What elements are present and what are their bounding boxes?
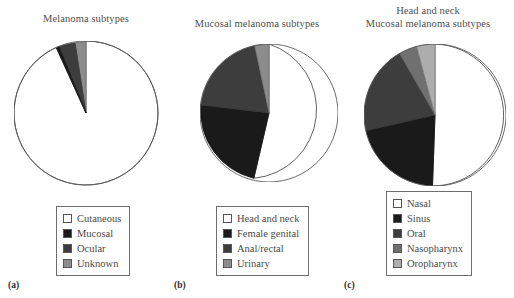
chart-title-c: Head and neck Mucosal melanoma subtypes	[342, 5, 514, 30]
legend-item[interactable]: Ocular	[63, 241, 122, 256]
legend-label-nasopharynx: Nasopharynx	[407, 243, 463, 254]
panel-b: Mucosal melanoma subtypes Head and neck …	[172, 0, 342, 298]
legend-label-female-genital: Female genital	[237, 228, 299, 239]
legend-label-nasal: Nasal	[407, 198, 431, 209]
legend-item[interactable]: Female genital	[223, 226, 301, 241]
pie-chart-b	[200, 44, 338, 182]
legend-item[interactable]: Unknown	[63, 256, 122, 271]
legend-swatch-sinus	[393, 214, 402, 223]
legend-swatch-unknown	[63, 259, 72, 268]
legend-swatch-urinary	[223, 259, 232, 268]
pie-chart-c-svg	[364, 44, 506, 186]
legend-label-ocular: Ocular	[77, 243, 106, 254]
legend-label-oropharynx: Oropharynx	[407, 258, 458, 269]
legend-swatch-nasal	[393, 199, 402, 208]
pie-slice-nasal	[433, 44, 504, 186]
legend-item[interactable]: Oral	[393, 226, 464, 241]
panel-letter-b: (b)	[174, 280, 186, 290]
panel-a: Melanoma subtypes Cutaneous Mucosal Ocul…	[0, 0, 172, 298]
chart-title-a: Melanoma subtypes	[0, 13, 172, 26]
legend-b: Head and neck Female genital Anal/rectal…	[216, 206, 309, 276]
legend-item[interactable]: Urinary	[223, 256, 301, 271]
legend-item[interactable]: Cutaneous	[63, 211, 122, 226]
legend-label-unknown: Unknown	[77, 258, 118, 269]
panel-letter-c: (c)	[344, 280, 355, 290]
legend-label-oral: Oral	[407, 228, 426, 239]
legend-swatch-female-genital	[223, 229, 232, 238]
pie-chart-c	[364, 44, 506, 186]
legend-label-urinary: Urinary	[237, 258, 270, 269]
legend-swatch-head-and-neck	[223, 214, 232, 223]
legend-swatch-oropharynx	[393, 259, 402, 268]
legend-label-anal-rectal: Anal/rectal	[237, 243, 284, 254]
pie-slices-a	[14, 41, 158, 185]
chart-title-c-line1: Head and neck	[342, 5, 514, 18]
panel-c: Head and neck Mucosal melanoma subtypes …	[342, 0, 514, 298]
legend-swatch-ocular	[63, 244, 72, 253]
pie-slices-c	[364, 44, 503, 186]
legend-swatch-cutaneous	[63, 214, 72, 223]
chart-title-c-line2: Mucosal melanoma subtypes	[342, 18, 514, 31]
chart-title-b: Mucosal melanoma subtypes	[172, 18, 342, 31]
legend-c: Nasal Sinus Oral Nasopharynx Oropharynx	[386, 191, 472, 276]
legend-swatch-oral	[393, 229, 402, 238]
pie-chart-a	[14, 41, 160, 187]
legend-item[interactable]: Nasopharynx	[393, 241, 464, 256]
legend-swatch-nasopharynx	[393, 244, 402, 253]
legend-item[interactable]: Mucosal	[63, 226, 122, 241]
legend-item[interactable]: Sinus	[393, 211, 464, 226]
legend-label-cutaneous: Cutaneous	[77, 213, 121, 224]
pie-chart-a-svg	[14, 41, 160, 187]
legend-item[interactable]: Anal/rectal	[223, 241, 301, 256]
legend-a: Cutaneous Mucosal Ocular Unknown	[56, 206, 130, 276]
legend-item[interactable]: Head and neck	[223, 211, 301, 226]
panel-letter-a: (a)	[8, 280, 19, 290]
legend-label-head-and-neck: Head and neck	[237, 213, 299, 224]
legend-item[interactable]: Oropharynx	[393, 256, 464, 271]
pie-slices-b	[201, 44, 317, 178]
pie-chart-b-svg	[200, 44, 338, 182]
legend-label-mucosal: Mucosal	[77, 228, 113, 239]
legend-label-sinus: Sinus	[407, 213, 430, 224]
legend-swatch-anal-rectal	[223, 244, 232, 253]
legend-item[interactable]: Nasal	[393, 196, 464, 211]
legend-swatch-mucosal	[63, 229, 72, 238]
